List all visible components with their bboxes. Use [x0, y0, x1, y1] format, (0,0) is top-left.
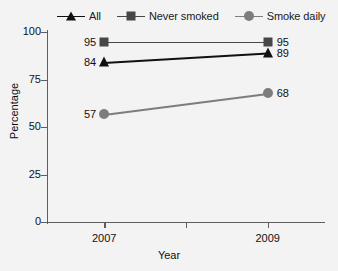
triangle-marker-icon: [57, 10, 85, 23]
legend-marker: [66, 12, 76, 21]
x-axis-title: Year: [0, 249, 338, 261]
legend-item-never-smoked[interactable]: Never smoked: [117, 10, 219, 23]
circle-marker-icon: [235, 10, 263, 23]
data-point-marker[interactable]: [263, 88, 273, 98]
legend-label-never-smoked: Never smoked: [149, 10, 219, 22]
legend-marker: [244, 11, 254, 21]
data-point-label: 84: [84, 56, 96, 68]
y-tick-mark: [41, 222, 47, 223]
y-axis-title-wrap: Percentage: [0, 0, 20, 271]
y-tick-mark: [41, 80, 47, 81]
data-point-marker[interactable]: [99, 109, 109, 119]
square-marker-icon: [117, 10, 145, 23]
data-point-label: 57: [84, 108, 96, 120]
data-point-marker[interactable]: [99, 57, 109, 67]
x-tick-mark: [268, 222, 269, 228]
y-tick-mark: [41, 32, 47, 33]
x-tick-mark: [104, 222, 105, 228]
y-tick-label: 0: [1, 215, 41, 227]
legend-marker: [126, 12, 135, 21]
y-tick-label: 75: [1, 73, 41, 85]
x-tick-label: 2009: [238, 232, 298, 244]
data-point-marker[interactable]: [263, 37, 272, 46]
series-line-smoke-daily: [104, 93, 268, 115]
legend-label-all: All: [89, 10, 101, 22]
x-tick-label: 2007: [74, 232, 134, 244]
legend-label-smoke-daily: Smoke daily: [267, 10, 326, 22]
data-point-label: 68: [277, 87, 289, 99]
y-tick-label: 50: [1, 120, 41, 132]
series-line-never-smoked: [104, 42, 268, 44]
legend-item-smoke-daily[interactable]: Smoke daily: [235, 10, 326, 23]
x-tick-mark: [186, 222, 187, 228]
data-point-marker[interactable]: [100, 37, 109, 46]
data-point-label: 95: [84, 36, 96, 48]
legend-item-all[interactable]: All: [57, 10, 101, 23]
series-line-all: [104, 53, 268, 64]
data-point-marker[interactable]: [263, 47, 273, 57]
chart-legend: All Never smoked Smoke daily: [57, 6, 332, 26]
data-point-label: 89: [277, 47, 289, 59]
y-tick-label: 100: [1, 25, 41, 37]
y-tick-mark: [41, 175, 47, 176]
chart-figure: All Never smoked Smoke daily Percentage …: [0, 0, 338, 271]
data-point-label: 95: [277, 36, 289, 48]
y-axis-line: [47, 30, 48, 224]
y-tick-mark: [41, 127, 47, 128]
y-tick-label: 25: [1, 168, 41, 180]
